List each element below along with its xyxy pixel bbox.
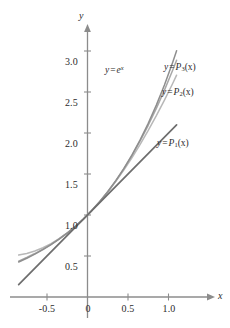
exponential-taylor-polynomials-chart: 3.0 2.5 2.0 1.5 1.0 0.5 -0.5 0 0.5 1.0 y… bbox=[0, 0, 230, 328]
curve-label-p1-arg: (x) bbox=[178, 138, 189, 148]
x-tick-label-0-5: 0.5 bbox=[114, 303, 142, 314]
y-tick-label-2-0: 2.0 bbox=[56, 138, 78, 149]
x-axis-name: x bbox=[218, 290, 222, 301]
curve-label-p3-arg: (x) bbox=[185, 62, 196, 72]
curve-label-exp-exponent: x bbox=[121, 64, 124, 71]
curve-label-p2-op: = bbox=[166, 87, 173, 97]
y-axis bbox=[84, 24, 91, 318]
curve-exp bbox=[19, 51, 177, 262]
curve-label-exp: y=ex bbox=[105, 64, 124, 75]
curve-label-p1-op: = bbox=[161, 138, 168, 148]
curve-label-p2-arg: (x) bbox=[183, 87, 194, 97]
x-tick-label-0: 0 bbox=[78, 303, 98, 314]
curve-label-exp-op: = bbox=[109, 65, 116, 75]
curve-p3 bbox=[19, 60, 177, 261]
y-axis-name: y bbox=[79, 10, 83, 21]
y-tick-label-0-5: 0.5 bbox=[56, 261, 78, 272]
x-tick-label-1-0: 1.0 bbox=[155, 303, 183, 314]
y-tick-label-3-0: 3.0 bbox=[56, 56, 78, 67]
curve-label-p2: y=P2(x) bbox=[162, 87, 194, 97]
curve-label-p3: y=P3(x) bbox=[164, 62, 196, 72]
y-tick-label-1-5: 1.5 bbox=[56, 179, 78, 190]
curve-group bbox=[19, 51, 177, 285]
x-axis bbox=[10, 294, 215, 301]
curve-label-p1: y=P1(x) bbox=[157, 138, 189, 148]
curve-label-p3-op: = bbox=[168, 62, 175, 72]
x-tick-label-neg-0-5: -0.5 bbox=[33, 303, 61, 314]
y-tick-label-2-5: 2.5 bbox=[56, 97, 78, 108]
y-tick-label-1-0: 1.0 bbox=[56, 220, 78, 231]
curve-p2 bbox=[19, 75, 177, 255]
curve-p1 bbox=[19, 125, 177, 285]
plot-canvas bbox=[0, 0, 230, 328]
